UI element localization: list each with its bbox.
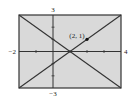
y-min-label: −3 xyxy=(49,90,57,98)
x-min-label: −2 xyxy=(9,48,17,56)
chart: (2, 1) 3 −3 −2 4 xyxy=(0,0,128,98)
y-max-label: 3 xyxy=(51,6,55,14)
point-label: (2, 1) xyxy=(69,32,85,40)
data-point xyxy=(85,38,88,41)
x-max-label: 4 xyxy=(124,48,128,56)
